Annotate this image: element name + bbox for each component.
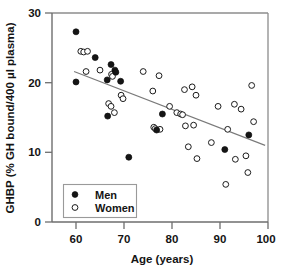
y-axis-title: GHBP (% GH bound/400 µl plasma) bbox=[4, 22, 16, 213]
y-tick-label: 20 bbox=[28, 77, 41, 89]
data-point-men bbox=[154, 127, 160, 133]
y-axis-ticks bbox=[45, 13, 52, 222]
data-point-men bbox=[113, 69, 119, 75]
data-point-women bbox=[182, 87, 188, 93]
legend-label-men: Men bbox=[95, 189, 117, 201]
data-point-men bbox=[222, 147, 228, 153]
chart-canvas: 0 10 20 30 60 70 80 90 100 Age (years) G… bbox=[0, 0, 284, 274]
data-point-men bbox=[104, 77, 110, 83]
data-point-women bbox=[120, 96, 126, 102]
x-tick-label: 80 bbox=[166, 233, 179, 245]
data-point-women bbox=[249, 83, 255, 89]
x-tick-label: 60 bbox=[70, 233, 83, 245]
series-women-points bbox=[78, 48, 257, 187]
data-point-women bbox=[215, 103, 221, 109]
data-point-men bbox=[108, 62, 114, 68]
data-point-men bbox=[92, 55, 98, 61]
data-point-women bbox=[183, 123, 189, 129]
y-tick-label: 10 bbox=[28, 146, 41, 158]
data-point-women bbox=[112, 110, 118, 116]
x-axis-ticks bbox=[76, 222, 268, 229]
y-tick-label: 0 bbox=[35, 216, 41, 228]
data-point-women bbox=[245, 170, 251, 176]
data-point-women bbox=[191, 122, 197, 128]
data-point-women bbox=[251, 119, 257, 125]
data-point-men bbox=[118, 78, 124, 84]
data-point-women bbox=[243, 153, 249, 159]
data-point-women bbox=[97, 67, 103, 73]
data-point-women bbox=[85, 48, 91, 54]
data-point-women bbox=[225, 126, 231, 132]
x-axis-tick-labels: 60 70 80 90 100 bbox=[70, 233, 276, 245]
chart-legend: Men Women bbox=[64, 185, 137, 218]
data-point-men bbox=[126, 154, 132, 160]
x-tick-label: 70 bbox=[118, 233, 131, 245]
data-point-men bbox=[159, 111, 165, 117]
data-point-women bbox=[189, 84, 195, 90]
x-tick-label: 100 bbox=[256, 233, 275, 245]
legend-marker-men bbox=[72, 192, 78, 198]
data-point-women bbox=[193, 92, 199, 98]
data-point-men bbox=[105, 113, 111, 119]
data-point-women bbox=[238, 106, 244, 112]
data-point-women bbox=[180, 112, 186, 118]
data-point-women bbox=[232, 156, 238, 162]
data-point-men bbox=[73, 79, 79, 85]
data-point-women bbox=[185, 144, 191, 150]
data-point-women bbox=[83, 69, 89, 75]
scatter-chart-figure: 0 10 20 30 60 70 80 90 100 Age (years) G… bbox=[0, 0, 284, 274]
x-tick-label: 90 bbox=[214, 233, 227, 245]
data-point-women bbox=[194, 156, 200, 162]
data-point-women bbox=[208, 140, 214, 146]
data-point-women bbox=[167, 103, 173, 109]
data-point-women bbox=[140, 69, 146, 75]
data-point-men bbox=[73, 29, 79, 35]
x-axis-title: Age (years) bbox=[131, 253, 194, 265]
data-point-women bbox=[156, 73, 162, 79]
legend-marker-women bbox=[72, 205, 78, 211]
series-men-points bbox=[73, 29, 252, 160]
y-tick-label: 30 bbox=[28, 7, 41, 19]
data-point-women bbox=[232, 101, 238, 107]
data-point-women bbox=[108, 103, 114, 109]
legend-label-women: Women bbox=[95, 202, 135, 214]
data-point-men bbox=[246, 132, 252, 138]
y-axis-tick-labels: 0 10 20 30 bbox=[28, 7, 41, 228]
data-point-women bbox=[150, 88, 156, 94]
data-point-women bbox=[223, 181, 229, 187]
